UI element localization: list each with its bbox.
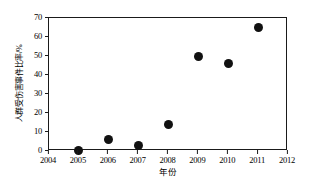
y-axis-tick-layer: 010203040506070 — [0, 17, 48, 150]
x-axis-tick-mark — [257, 150, 258, 154]
data-point — [164, 120, 173, 129]
x-axis-tick: 2004 — [40, 150, 56, 164]
y-axis-tick-label: 60 — [34, 32, 45, 41]
x-axis-tick-label: 2007 — [130, 156, 146, 165]
x-axis-tick-label: 2009 — [189, 156, 205, 165]
x-axis-tick-mark — [107, 150, 108, 154]
x-axis-tick: 2010 — [219, 150, 235, 164]
x-axis-tick-label: 2005 — [70, 156, 86, 165]
data-point — [104, 135, 113, 144]
x-axis-tick-mark — [227, 150, 228, 154]
scatter-chart-figure: 人群受伤害事件比率/% 010203040506070 200420052006… — [0, 0, 311, 187]
x-axis-tick: 2005 — [70, 150, 86, 164]
x-axis-tick-mark — [137, 150, 138, 154]
data-point — [254, 23, 263, 32]
x-axis-tick-mark — [197, 150, 198, 154]
y-axis-tick-label: 40 — [34, 70, 45, 79]
x-axis-tick-label: 2010 — [219, 156, 235, 165]
data-point-layer — [49, 18, 286, 149]
plot-area — [48, 17, 287, 150]
x-axis-tick: 2007 — [130, 150, 146, 164]
x-axis-tick-label: 2008 — [159, 156, 175, 165]
x-axis-tick-mark — [47, 150, 48, 154]
x-axis-tick: 2008 — [159, 150, 175, 164]
x-axis-title: 年份 — [48, 168, 287, 177]
y-axis-tick-label: 10 — [34, 127, 45, 136]
y-axis-tick-label: 30 — [34, 89, 45, 98]
x-axis-tick-label: 2006 — [100, 156, 116, 165]
x-axis-tick-mark — [286, 150, 287, 154]
x-axis-tick-mark — [77, 150, 78, 154]
y-axis-tick-label: 70 — [34, 13, 45, 22]
x-axis-tick: 2012 — [279, 150, 295, 164]
x-axis-tick-label: 2011 — [249, 156, 265, 165]
x-axis-tick-layer: 200420052006200720082009201020112012 — [48, 150, 287, 166]
data-point — [224, 59, 233, 68]
x-axis-tick-label: 2012 — [279, 156, 295, 165]
y-axis-tick-label: 50 — [34, 51, 45, 60]
y-axis-tick-label: 20 — [34, 108, 45, 117]
x-axis-tick-label: 2004 — [40, 156, 56, 165]
x-axis-tick: 2009 — [189, 150, 205, 164]
x-axis-tick: 2011 — [249, 150, 265, 164]
data-point — [134, 141, 143, 150]
data-point — [194, 52, 203, 61]
x-axis-tick-mark — [167, 150, 168, 154]
x-axis-tick: 2006 — [100, 150, 116, 164]
